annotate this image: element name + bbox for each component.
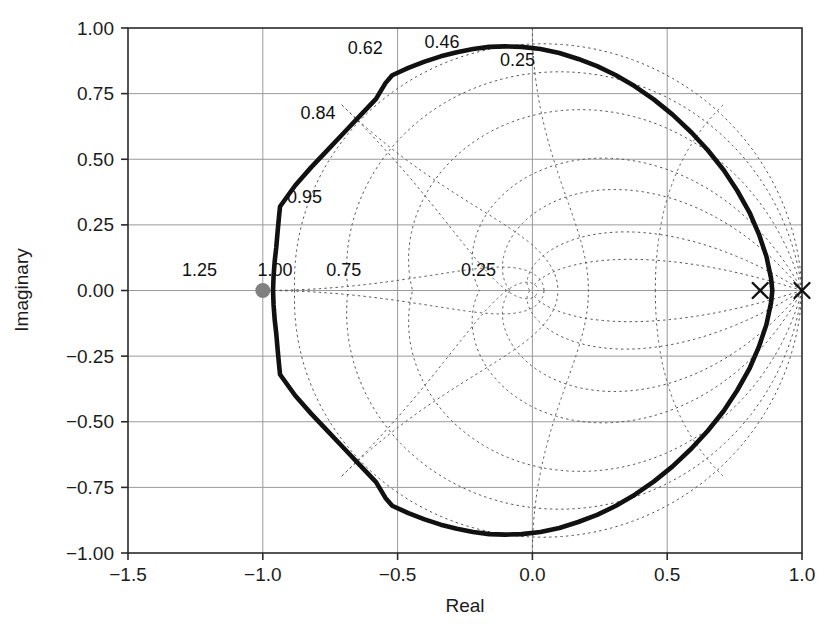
grid-annotation-label: 0.84: [301, 103, 336, 123]
grid-annotation-label: 1.25: [182, 260, 217, 280]
figure-background: [0, 0, 840, 639]
y-tick-label: 0.50: [77, 149, 114, 170]
selected-root: [255, 283, 270, 298]
x-tick-label: 0.0: [519, 564, 545, 585]
grid-annotation-label: 0.46: [425, 32, 460, 52]
x-tick-label: −1.5: [109, 564, 147, 585]
x-tick-label: −0.5: [379, 564, 417, 585]
root-locus-plot: 0.620.460.250.840.951.251.000.750.25 −1.…: [0, 0, 840, 639]
x-tick-label: 0.5: [654, 564, 680, 585]
y-tick-label: −0.75: [66, 477, 114, 498]
figure-root: 0.620.460.250.840.951.251.000.750.25 −1.…: [0, 0, 840, 639]
y-tick-label: 0.25: [77, 214, 114, 235]
y-tick-label: −0.50: [66, 411, 114, 432]
y-tick-label: −0.25: [66, 346, 114, 367]
grid-annotation-label: 0.95: [287, 187, 322, 207]
grid-annotation-label: 0.75: [326, 260, 361, 280]
grid-annotation-label: 0.62: [348, 38, 383, 58]
y-tick-label: 0.75: [77, 83, 114, 104]
y-tick-label: −1.00: [66, 543, 114, 564]
x-tick-label: −1.0: [244, 564, 282, 585]
grid-annotation-label: 1.00: [257, 260, 292, 280]
x-axis-title: Real: [445, 595, 484, 616]
x-tick-label: 1.0: [789, 564, 815, 585]
y-tick-label: 0.00: [77, 280, 114, 301]
y-axis-title: Imaginary: [11, 248, 32, 332]
grid-annotation-label: 0.25: [500, 50, 535, 70]
y-tick-label: 1.00: [77, 18, 114, 39]
grid-annotation-label: 0.25: [461, 260, 496, 280]
